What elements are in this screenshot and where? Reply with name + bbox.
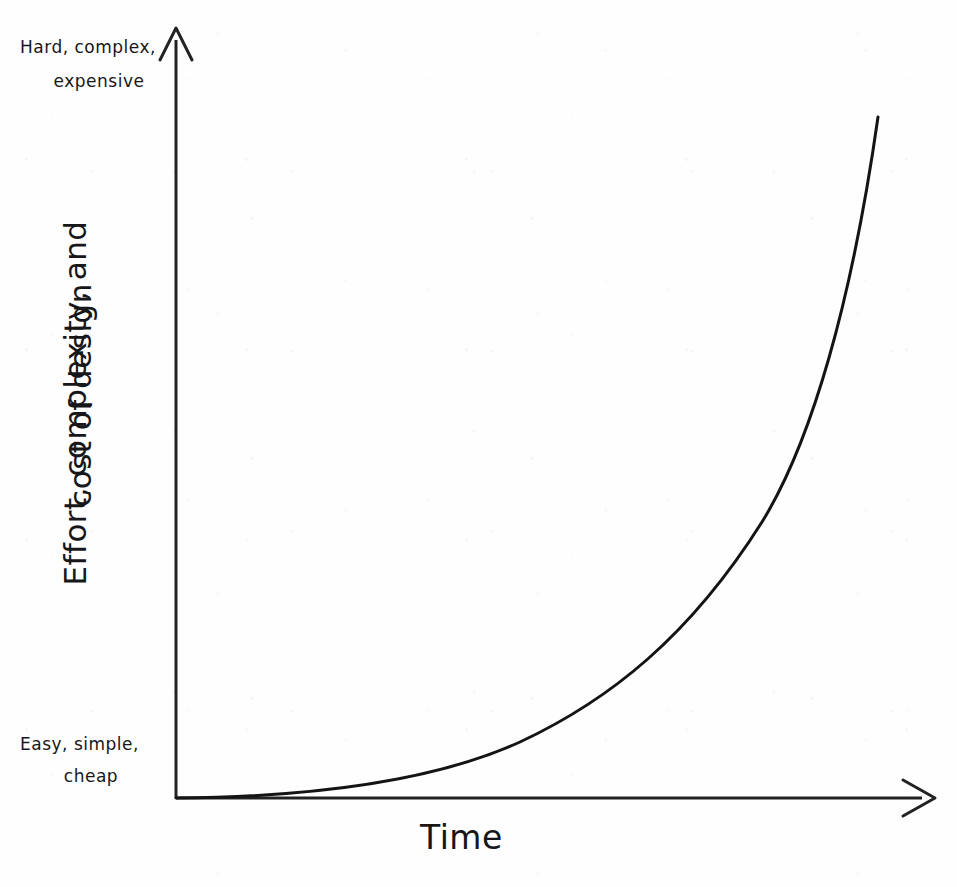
y-axis-high-annotation-line1: Hard, complex, [8, 30, 168, 64]
y-axis-title-line2: cost of design [62, 185, 98, 605]
exponential-curve [176, 117, 878, 798]
y-axis-high-annotation: Hard, complex, expensive [8, 30, 168, 98]
y-axis-low-annotation-line2: cheap [8, 760, 168, 792]
y-axis-low-annotation: Easy, simple, cheap [8, 728, 168, 792]
chart-figure: Hard, complex, expensive Easy, simple, c… [0, 0, 957, 887]
y-axis-high-annotation-line2: expensive [8, 64, 168, 98]
x-axis-title: Time [420, 818, 503, 857]
y-axis-low-annotation-line1: Easy, simple, [8, 728, 168, 760]
